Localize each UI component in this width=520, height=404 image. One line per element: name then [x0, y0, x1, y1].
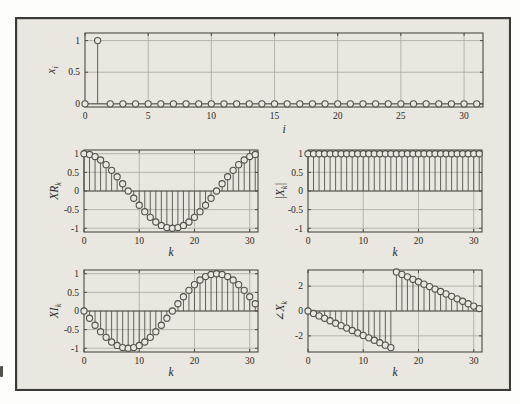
scan-artifact: [0, 366, 3, 377]
svg-text:10: 10: [134, 236, 144, 246]
svg-text:30: 30: [245, 236, 255, 246]
svg-text:0: 0: [306, 236, 311, 246]
svg-text:15: 15: [270, 111, 280, 121]
svg-text:20: 20: [190, 356, 200, 366]
charts-svg: 05101520253000.51ixi0102030-1-0.500.51kX…: [17, 19, 509, 389]
svg-text:30: 30: [469, 356, 479, 366]
svg-text:1: 1: [75, 36, 80, 46]
svg-text:0.5: 0.5: [67, 168, 79, 178]
svg-text:-2: -2: [295, 331, 303, 341]
svg-text:2: 2: [298, 281, 303, 291]
x-axis-label: k: [392, 366, 398, 378]
gridlines: [85, 33, 483, 107]
stem-markers: [305, 269, 482, 351]
tick-labels: 0102030-1-0.500.51: [64, 149, 255, 246]
svg-text:0.5: 0.5: [67, 288, 79, 298]
svg-text:25: 25: [396, 111, 406, 121]
x-axis-label: k: [168, 246, 174, 258]
svg-text:10: 10: [134, 356, 144, 366]
svg-text:10: 10: [207, 111, 217, 121]
y-axis-label: XRk: [48, 182, 63, 201]
x-axis-label: k: [392, 246, 398, 258]
tick-marks: [85, 33, 483, 107]
svg-text:30: 30: [469, 236, 479, 246]
svg-text:0: 0: [298, 186, 303, 196]
svg-text:1: 1: [298, 149, 303, 159]
y-axis-label: xi: [45, 66, 60, 74]
svg-text:0.5: 0.5: [291, 168, 303, 178]
chart-dft-imag-part: 0102030-1-0.500.51kXIk: [48, 269, 258, 378]
svg-text:0: 0: [82, 236, 87, 246]
svg-text:0.5: 0.5: [68, 67, 80, 77]
svg-text:0: 0: [298, 306, 303, 316]
chart-dft-real-part: 0102030-1-0.500.51kXRk: [48, 149, 258, 258]
figure-panel: 05101520253000.51ixi0102030-1-0.500.51kX…: [15, 17, 511, 391]
svg-text:0: 0: [74, 306, 79, 316]
svg-text:20: 20: [414, 236, 424, 246]
y-axis-label: XIk: [48, 303, 63, 319]
svg-text:-1: -1: [295, 224, 303, 234]
tick-labels: 0102030-1-0.500.51: [288, 149, 479, 246]
svg-text:20: 20: [414, 356, 424, 366]
stem-markers: [305, 151, 482, 157]
svg-text:20: 20: [190, 236, 200, 246]
tick-labels: 05101520253000.51: [68, 36, 469, 121]
svg-text:10: 10: [358, 236, 368, 246]
svg-text:30: 30: [459, 111, 469, 121]
svg-text:0: 0: [75, 99, 80, 109]
svg-text:0: 0: [82, 356, 87, 366]
page: { "figure": { "panel_bg": "#e9e7e0", "bo…: [0, 0, 520, 404]
svg-text:1: 1: [74, 149, 79, 159]
y-axis-label: |Xk|: [274, 183, 289, 200]
svg-text:0: 0: [74, 186, 79, 196]
svg-text:-1: -1: [71, 344, 79, 354]
svg-text:5: 5: [146, 111, 151, 121]
chart-dft-magnitude: 0102030-1-0.500.51k|Xk|: [274, 149, 482, 258]
svg-text:1: 1: [74, 269, 79, 279]
svg-text:-0.5: -0.5: [64, 325, 79, 335]
svg-text:-1: -1: [71, 224, 79, 234]
x-axis-label: k: [168, 366, 174, 378]
chart-dft-phase: 0102030-202k∠Xk: [274, 269, 482, 378]
x-axis-label: i: [282, 123, 285, 135]
svg-text:30: 30: [245, 356, 255, 366]
svg-text:0: 0: [83, 111, 88, 121]
svg-text:0: 0: [306, 356, 311, 366]
y-axis-label: ∠Xk: [274, 300, 289, 321]
chart-input-sequence: 05101520253000.51ixi: [45, 33, 483, 135]
axes-box: [85, 33, 483, 107]
svg-text:-0.5: -0.5: [288, 205, 303, 215]
svg-text:10: 10: [358, 356, 368, 366]
svg-text:-0.5: -0.5: [64, 205, 79, 215]
svg-text:20: 20: [333, 111, 343, 121]
